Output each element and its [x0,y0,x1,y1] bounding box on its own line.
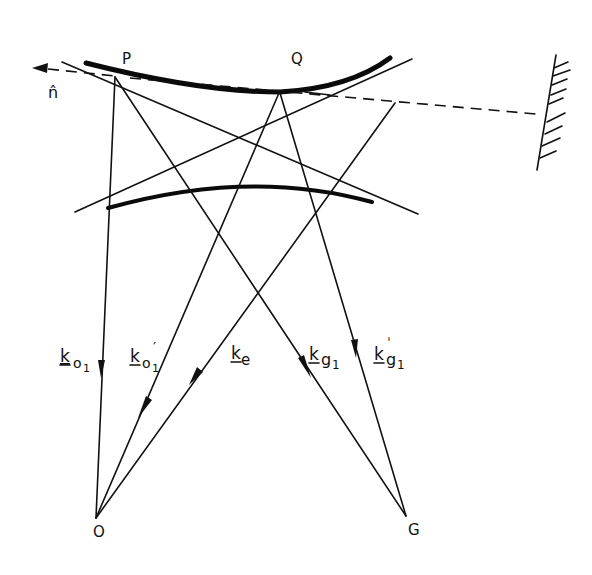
svg-text:o: o [142,355,151,371]
arrow-k-e [189,367,203,385]
arrow-k-g1-prime [351,339,358,358]
svg-text:1: 1 [152,362,159,375]
svg-text:g: g [386,350,396,369]
svg-text:k: k [231,343,241,363]
ray-k-g1-prime [280,93,406,516]
label-O: O [93,523,105,541]
label-n-hat: n̂ [48,83,58,102]
ray-k-e [96,103,395,518]
svg-text:1: 1 [397,358,405,372]
svg-text:k: k [374,344,384,364]
ray-P-to-G [115,77,406,516]
arrow-k-o1-prime [138,396,152,418]
svg-text:k: k [309,344,319,364]
label-Q: Q [291,50,303,68]
svg-text:k: k [60,346,70,366]
label-k-o1: k o 1 [60,346,90,375]
label-k-o1-prime: k o 1 ′ [130,339,159,375]
svg-text:1: 1 [83,362,90,375]
svg-text:k: k [130,346,140,366]
label-k-e: k e [231,343,250,369]
ray-k-o1-prime [96,93,279,518]
normal-arrowhead [32,63,48,73]
label-P: P [122,50,131,68]
label-k-g1: k g 1 [309,344,340,372]
svg-text:1: 1 [332,358,340,372]
svg-text:′: ′ [153,339,156,355]
ray-k-o1 [96,77,115,518]
diffraction-diagram: P Q n̂ O G k o 1 k o 1 ′ k e k g 1 k g 1… [0,0,592,575]
mirror [537,55,570,170]
svg-text:o: o [73,355,82,371]
svg-text:ˈ: ˈ [387,335,391,351]
svg-text:e: e [241,351,250,369]
label-G: G [408,521,420,539]
arrow-k-o1 [98,360,105,378]
label-k-g1-prime: k g 1 ˈ [374,335,405,372]
svg-text:g: g [321,350,331,369]
